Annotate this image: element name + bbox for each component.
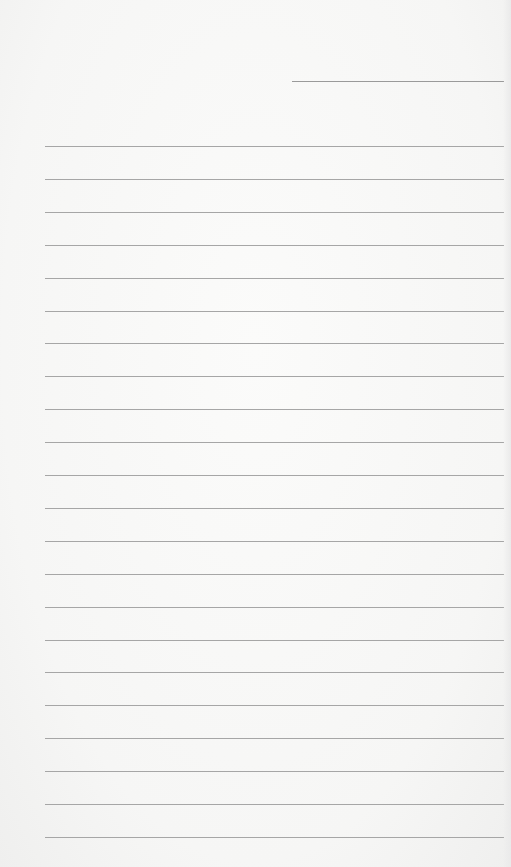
ruled-line	[45, 475, 504, 476]
ruled-line	[45, 672, 504, 673]
ruled-line	[45, 179, 504, 180]
ruled-line	[45, 837, 504, 838]
ruled-line	[45, 508, 504, 509]
ruled-line	[45, 705, 504, 706]
page-edge-shadow	[503, 0, 511, 867]
ruled-line	[45, 541, 504, 542]
header-line	[292, 81, 504, 82]
lined-paper-page	[0, 0, 511, 867]
ruled-line	[45, 278, 504, 279]
ruled-line	[45, 409, 504, 410]
ruled-line	[45, 311, 504, 312]
ruled-line	[45, 343, 504, 344]
ruled-line	[45, 212, 504, 213]
ruled-line	[45, 146, 504, 147]
ruled-line	[45, 376, 504, 377]
ruled-line	[45, 738, 504, 739]
ruled-line	[45, 804, 504, 805]
ruled-line	[45, 640, 504, 641]
ruled-line	[45, 607, 504, 608]
ruled-line	[45, 771, 504, 772]
ruled-line	[45, 574, 504, 575]
ruled-line	[45, 442, 504, 443]
ruled-line	[45, 245, 504, 246]
